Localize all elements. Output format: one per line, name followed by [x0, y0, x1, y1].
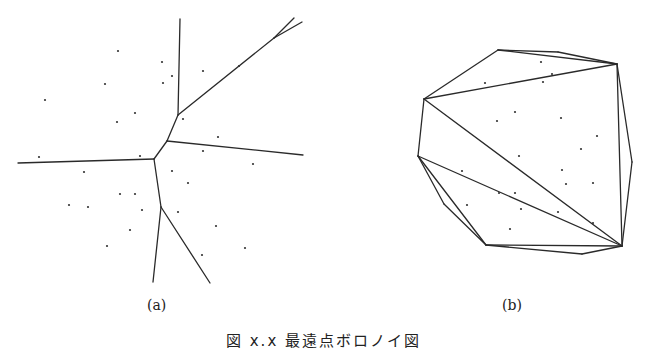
- edge: [154, 159, 161, 207]
- site-point: [162, 82, 164, 84]
- figure-caption: 図 x.x 最遠点ボロノイ図: [0, 329, 647, 350]
- edge: [418, 99, 424, 156]
- site-point: [484, 82, 486, 84]
- site-point: [38, 156, 40, 158]
- panel-b-label: (b): [502, 297, 522, 313]
- site-point: [498, 192, 500, 194]
- site-point: [540, 61, 542, 63]
- site-point: [202, 150, 204, 152]
- site-point: [117, 50, 119, 52]
- site-point: [119, 193, 121, 195]
- site-point: [244, 247, 246, 249]
- edge: [18, 159, 154, 163]
- site-point: [116, 121, 118, 123]
- site-point: [134, 112, 136, 114]
- edge: [161, 207, 210, 283]
- site-point: [87, 206, 89, 208]
- site-point: [83, 171, 85, 173]
- edge: [154, 141, 167, 159]
- site-point: [565, 183, 567, 185]
- site-point: [496, 120, 498, 122]
- site-point: [139, 155, 141, 157]
- site-point: [509, 228, 511, 230]
- site-point: [187, 182, 189, 184]
- site-point: [171, 75, 173, 77]
- edge: [418, 156, 486, 245]
- site-point: [177, 211, 179, 213]
- site-point: [560, 117, 562, 119]
- site-point: [238, 65, 240, 67]
- site-point: [551, 73, 553, 75]
- edge: [486, 245, 582, 254]
- site-point: [129, 229, 131, 231]
- site-point: [466, 204, 468, 206]
- site-point: [561, 169, 563, 171]
- edge: [178, 19, 180, 115]
- site-point: [202, 70, 204, 72]
- site-point: [44, 99, 46, 101]
- edge: [486, 245, 622, 246]
- site-point: [592, 182, 594, 184]
- edge: [582, 246, 622, 254]
- site-point: [182, 118, 184, 120]
- edge: [424, 64, 617, 99]
- edge: [153, 207, 161, 282]
- edge: [178, 38, 274, 115]
- site-point: [134, 193, 136, 195]
- site-point: [252, 163, 254, 165]
- edge: [167, 115, 178, 141]
- edge: [444, 204, 486, 245]
- edge: [424, 99, 622, 246]
- site-point: [141, 209, 143, 211]
- site-point: [161, 61, 163, 63]
- site-point: [557, 211, 559, 213]
- site-point: [217, 136, 219, 138]
- site-point: [514, 192, 516, 194]
- site-point: [514, 111, 516, 113]
- site-point: [171, 170, 173, 172]
- site-point: [201, 254, 203, 256]
- site-point: [461, 170, 463, 172]
- voronoi-diagram-panel: [18, 18, 303, 283]
- edge: [418, 156, 444, 204]
- site-point: [106, 245, 108, 247]
- site-point: [68, 204, 70, 206]
- site-point: [520, 208, 522, 210]
- site-point: [542, 81, 544, 83]
- site-point: [596, 135, 598, 137]
- site-point: [580, 148, 582, 150]
- edge: [167, 141, 303, 155]
- triangulation-panel: [418, 50, 632, 254]
- site-point: [592, 222, 594, 224]
- site-point: [215, 225, 217, 227]
- site-point: [518, 155, 520, 157]
- panel-a-label: (a): [147, 297, 166, 313]
- edge: [622, 162, 632, 246]
- site-point: [104, 83, 106, 85]
